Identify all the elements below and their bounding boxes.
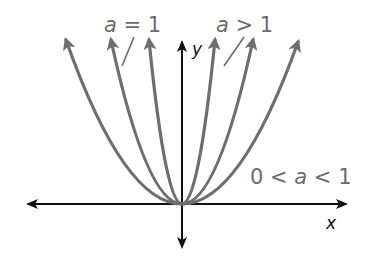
curve-a-between-0-and-1-left (66, 40, 182, 204)
x-axis-label: x (325, 213, 337, 233)
label-a-between-0-and-1: 0 < a < 1 (250, 165, 352, 189)
parabola-family-diagram: x y a = 1 a > 1 0 < a < 1 (0, 0, 375, 258)
leader-a-greater-1 (224, 37, 244, 66)
leader-a-equals-1 (122, 37, 134, 66)
curve-a-equals-1-left (111, 40, 182, 204)
y-axis-label: y (191, 39, 203, 59)
label-a-equals-1: a = 1 (104, 13, 161, 37)
label-a-greater-1: a > 1 (216, 13, 273, 37)
curve-a-equals-1-right (182, 40, 253, 204)
